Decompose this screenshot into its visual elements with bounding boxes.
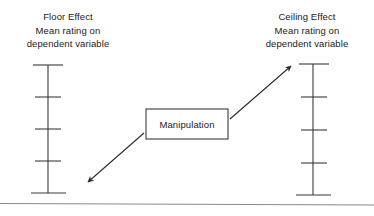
manipulation-box-label: Manipulation bbox=[146, 109, 228, 139]
ceiling-effect-scale bbox=[296, 64, 331, 195]
arrow-to-floor bbox=[88, 133, 144, 182]
diagram-vector-layer bbox=[0, 0, 374, 216]
arrow-to-ceiling bbox=[230, 66, 291, 119]
floor-effect-scale bbox=[31, 65, 66, 193]
diagram-canvas: Floor Effect Mean rating on dependent va… bbox=[0, 0, 374, 216]
horizontal-divider bbox=[0, 204, 374, 206]
